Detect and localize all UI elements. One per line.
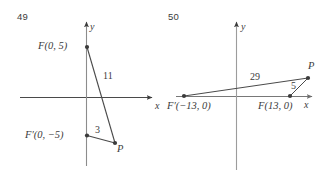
- diagram-canvas: [0, 0, 325, 173]
- panel-49-point-F: [85, 45, 89, 49]
- panel-50-x-axis-label: x: [304, 100, 308, 110]
- panel-49-x-axis-label: x: [155, 101, 159, 111]
- panel-50-segment-Fprime-P: [184, 78, 308, 96]
- panel-50-label-point-F-prime: F′(−13, 0): [167, 101, 211, 112]
- panel-49-label-point-P: P: [117, 144, 123, 155]
- panel-50-point-P: [306, 76, 310, 80]
- panel-50-triangle: [184, 78, 308, 96]
- panel-49-problem-number: 49: [17, 12, 28, 22]
- panel-49-segment-Fprime-P: [87, 136, 115, 144]
- panel-49-label-point-F: F(0, 5): [38, 41, 67, 52]
- figure-root: 49 y x F(0, 5) F′(0, −5) P 11 3 50 y x F…: [0, 0, 325, 173]
- panel-50-y-axis-label: y: [241, 22, 245, 32]
- panel-49-segment-F-P: [87, 47, 115, 143]
- panel-50-label-point-P: P: [308, 61, 314, 72]
- panel-50-label-point-F: F(13, 0): [258, 101, 292, 112]
- panel-49-y-axis-label: y: [90, 22, 94, 32]
- panel-50-segment-length-29: 29: [250, 72, 260, 82]
- panel-49-triangle: [87, 47, 115, 143]
- panel-50-point-F-prime: [182, 94, 186, 98]
- panel-50-problem-number: 50: [168, 12, 179, 22]
- panel-49-point-F-prime: [85, 133, 89, 137]
- panel-49-segment-length-3: 3: [95, 125, 100, 135]
- panel-50-segment-length-5: 5: [291, 81, 296, 91]
- panel-50-point-F: [288, 94, 292, 98]
- panel-49-segment-length-11: 11: [103, 71, 113, 81]
- panel-49-label-point-F-prime: F′(0, −5): [25, 130, 64, 141]
